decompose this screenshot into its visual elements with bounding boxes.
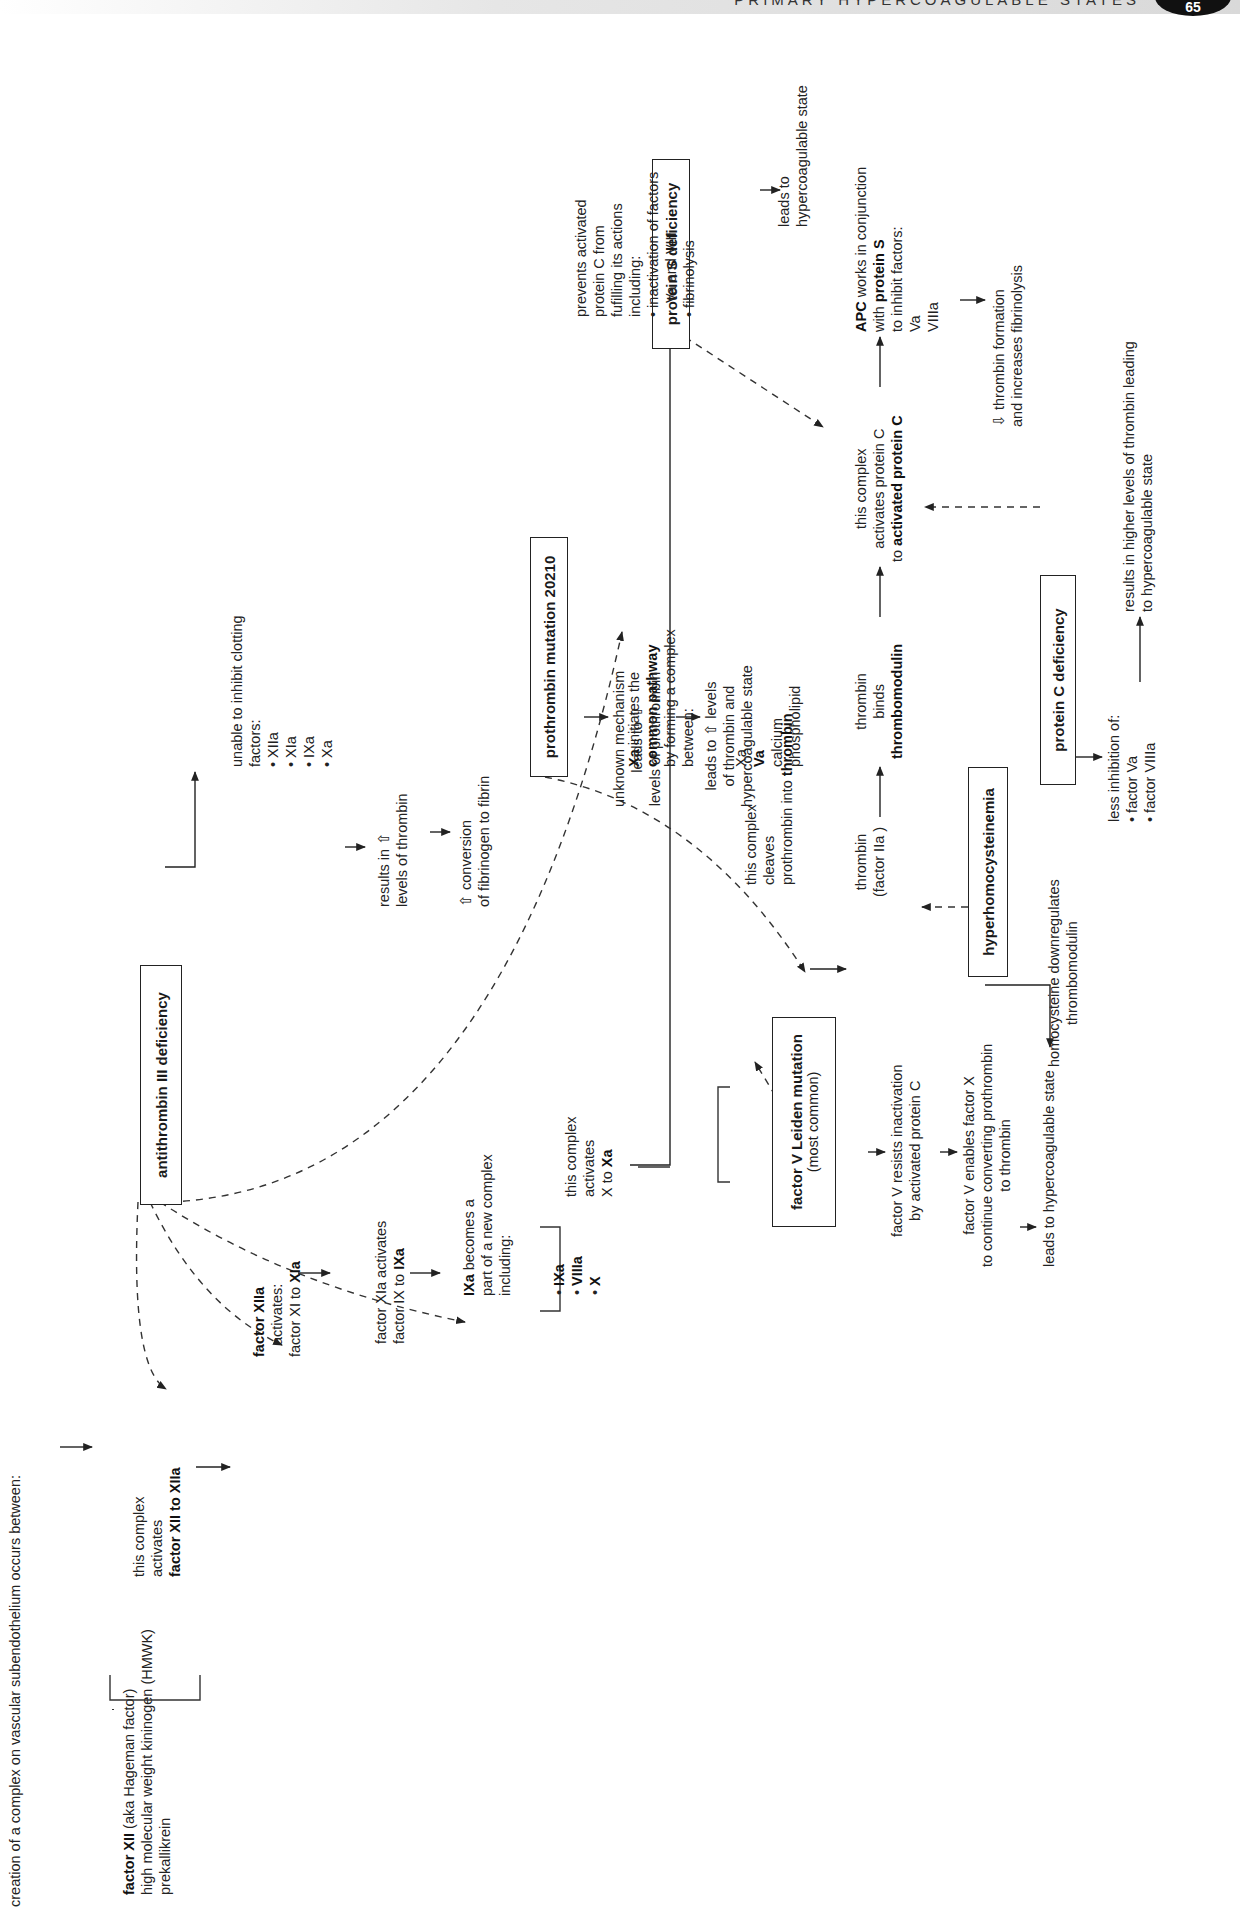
ixa-complex-items: • IXa • VIIIa • X <box>550 1256 604 1295</box>
protein-s-deficiency-result: leads to hypercoagulable state <box>775 85 811 227</box>
protein-c-deficiency-box[interactable]: protein C deficiency <box>1040 575 1076 785</box>
antithrombin-iii-deficiency-box[interactable]: antithrombin III deficiency <box>140 965 182 1205</box>
antithrombin-effect: unable to inhibit clotting factors: • XI… <box>228 615 336 767</box>
factor-v-leiden-step2: factor V enables factor X to continue co… <box>960 1044 1014 1267</box>
prothrombin-mutation-step1: unknown mechanism leads to ⇧ levels of p… <box>610 671 664 807</box>
hyperhomocysteinemia-effect: homocysteine downregulates thrombomoduli… <box>1045 879 1081 1067</box>
ixa-complex-text: IXa becomes a part of a new complex incl… <box>460 1154 514 1296</box>
protein-c-deficiency-result: results in higher levels of thrombin lea… <box>1120 341 1156 612</box>
thrombin-text: thrombin (factor IIa ) <box>852 827 888 897</box>
complex1-text: this complex activates factor XII to XII… <box>130 1467 184 1577</box>
factor-v-leiden-step3: leads to hypercoagulable state <box>1040 1070 1058 1267</box>
factor-v-leiden-step1: factor V resists inactivation by activat… <box>888 1065 924 1237</box>
apc-result-text: ⇩ thrombin formation and increases fibri… <box>990 265 1026 427</box>
factor-xiia-text: factor XIIa activates: factor XI to XIa <box>250 1261 304 1357</box>
factor-xia-text: factor XIa activates factor IX to IXa <box>372 1221 408 1344</box>
activates-protein-c-text: this complex activates protein C to acti… <box>852 415 906 562</box>
antithrombin-final: ⇧ conversion of fibrinogen to fibrin <box>457 776 493 907</box>
complex2-text: this complex activates X to Xa <box>562 1116 616 1197</box>
protein-c-deficiency-effect: less inhibition of: • factor Va • factor… <box>1105 715 1159 822</box>
prothrombin-mutation-box[interactable]: prothrombin mutation 20210 <box>530 537 568 777</box>
apc-text: APC works in conjunction with protein S … <box>852 167 942 332</box>
thrombin-binds-text: thrombin binds thrombomodulin <box>852 644 906 759</box>
protein-s-deficiency-effect: prevents activated protein C from fufill… <box>572 172 698 317</box>
factor-v-leiden-box[interactable]: factor V Leiden mutation (most common) <box>772 1017 836 1227</box>
antithrombin-result: results in ⇧ levels of thrombin <box>375 793 411 907</box>
hyperhomocysteinemia-box[interactable]: hyperhomocysteinemia <box>968 767 1008 977</box>
prothrombin-mutation-step2: leads to ⇧ levels of thrombin and hyperc… <box>702 665 756 807</box>
flow-diagram: creation of a complex on vascular subend… <box>0 0 1240 1907</box>
